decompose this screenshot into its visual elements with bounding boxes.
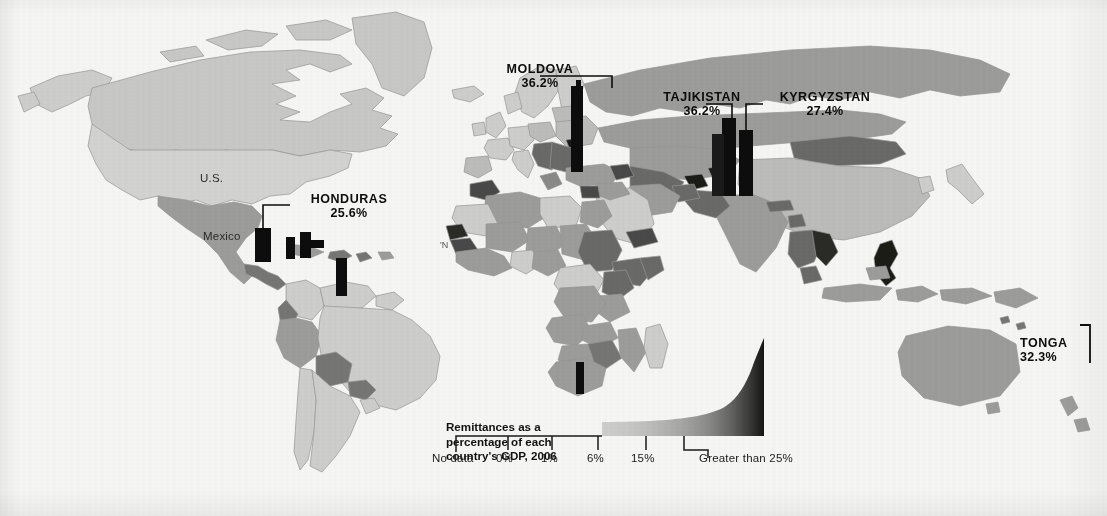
map-legend: Remittances as a percentage of each coun… [446, 340, 916, 490]
legend-tick-no-data: No data [432, 452, 474, 464]
callout-kyrgyzstan: KYRGYZSTAN 27.4% [754, 90, 896, 119]
callout-honduras-name: HONDURAS [286, 192, 412, 206]
callout-tajikistan-name: TAJIKISTAN [632, 90, 772, 104]
callout-moldova-name: MOLDOVA [472, 62, 608, 76]
callout-honduras: HONDURAS 25.6% [286, 192, 412, 221]
legend-tick-15: 15% [631, 452, 655, 464]
callout-tonga-name: TONGA [1020, 336, 1092, 350]
remittances-world-map-figure: U.S. Mexico 'N MOLDOVA 36.2% [0, 0, 1107, 516]
callout-tajikistan-value: 36.2% [632, 104, 772, 119]
callout-tonga-value: 32.3% [1020, 350, 1092, 365]
callout-honduras-value: 25.6% [286, 206, 412, 221]
legend-tick-greater-than-25: Greater than 25% [699, 452, 793, 464]
legend-tick-6: 6% [587, 452, 604, 464]
callout-kyrgyzstan-name: KYRGYZSTAN [754, 90, 896, 104]
callout-moldova-value: 36.2% [472, 76, 608, 91]
callout-tonga: TONGA 32.3% [1020, 336, 1092, 365]
legend-tick-0: 0% [496, 452, 513, 464]
callout-tajikistan: TAJIKISTAN 36.2% [632, 90, 772, 119]
callout-moldova: MOLDOVA 36.2% [472, 62, 608, 91]
legend-tick-1: 1% [541, 452, 558, 464]
legend-tick-marks [446, 340, 916, 490]
callout-kyrgyzstan-value: 27.4% [754, 104, 896, 119]
